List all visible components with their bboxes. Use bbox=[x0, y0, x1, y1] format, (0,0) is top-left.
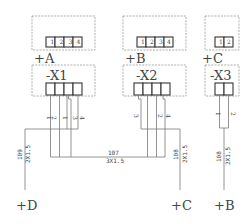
location-label-a: +A bbox=[34, 51, 55, 66]
x1-wires bbox=[25, 95, 125, 190]
wiring-diagram: 1 2 3 4 +A -X1 1 2 1 3 4 109 2X1.5 107 3… bbox=[0, 0, 252, 224]
cable-109-spec: 2X1.5 bbox=[24, 145, 31, 163]
pin-b-1: 1 bbox=[141, 38, 145, 45]
destination-label-b: +B bbox=[214, 198, 234, 213]
location-label-c: +C bbox=[202, 51, 223, 66]
cable-107-spec: 3X1.5 bbox=[106, 157, 124, 164]
pin-c-1: 1 bbox=[219, 38, 223, 45]
cable-108a-spec: 2X1.5 bbox=[181, 145, 188, 163]
wire-pin-c-2: 2 bbox=[230, 112, 237, 116]
pin-b-3: 3 bbox=[159, 38, 163, 45]
pin-a-4: 4 bbox=[77, 38, 81, 45]
cable-109-number: 109 bbox=[16, 149, 23, 160]
destination-label-c: +C bbox=[171, 198, 192, 213]
pin-a-1: 1 bbox=[51, 38, 55, 45]
pin-a-3: 3 bbox=[69, 38, 73, 45]
wire-pin-b-3: 3 bbox=[133, 114, 140, 118]
x2-wires bbox=[125, 95, 180, 190]
wire-pin-a-2: 2 bbox=[51, 116, 58, 120]
pin-b-4: 4 bbox=[167, 38, 171, 45]
terminal-strip-x1: -X1 bbox=[32, 65, 95, 96]
destination-label-d: +D bbox=[16, 198, 37, 213]
terminal-strip-x3: -X3 bbox=[205, 65, 239, 96]
pin-c-2: 2 bbox=[227, 38, 231, 45]
location-c-top-panel: 1 2 bbox=[205, 16, 239, 50]
terminal-strip-x2: -X2 bbox=[123, 65, 186, 96]
pin-b-2: 2 bbox=[150, 38, 154, 45]
device-label-x2: -X2 bbox=[136, 68, 157, 83]
device-label-x1: -X1 bbox=[46, 68, 67, 83]
cable-107-number: 107 bbox=[108, 149, 119, 156]
wire-pin-b-2: 2 bbox=[157, 114, 164, 118]
wire-pin-a-3: 3 bbox=[72, 116, 79, 120]
wire-pin-a-4: 4 bbox=[79, 116, 86, 120]
device-label-x3: -X3 bbox=[210, 68, 231, 83]
wire-pin-c-1: 1 bbox=[215, 112, 222, 116]
wire-pin-a-1b: 1 bbox=[62, 116, 69, 120]
location-b-top-panel: 1 2 3 4 bbox=[123, 16, 186, 50]
cable-108b-number: 108 bbox=[215, 151, 222, 162]
cable-108a-number: 108 bbox=[172, 149, 179, 160]
pin-a-2: 2 bbox=[60, 38, 64, 45]
x3-wires bbox=[220, 95, 229, 190]
location-label-b: +B bbox=[125, 51, 145, 66]
location-a-top-panel: 1 2 3 4 bbox=[32, 16, 95, 50]
wire-pin-b-4: 4 bbox=[165, 114, 172, 118]
cable-108b-spec: 2X1.5 bbox=[224, 147, 231, 165]
